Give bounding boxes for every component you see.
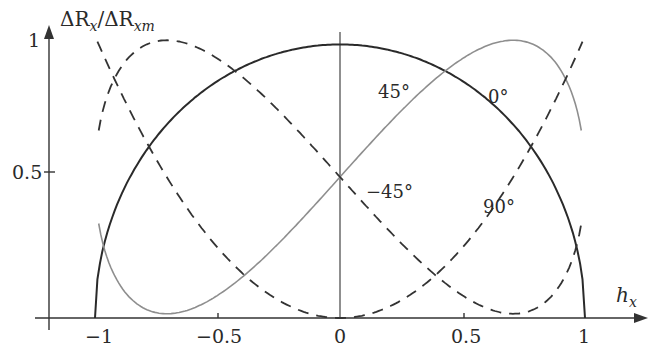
y-axis-arrow-icon [44, 25, 54, 39]
chart: ΔRx/ΔRxm hx 1 0.5 −1 −0.5 0 0.5 1 45° 0°… [0, 0, 650, 351]
y-axis-label: ΔRx/ΔRxm [60, 7, 155, 34]
xtick-minus0.5: −0.5 [196, 325, 242, 347]
xtick-0: 0 [334, 325, 346, 347]
xtick-minus1: −1 [85, 325, 113, 347]
ytick-0.5: 0.5 [12, 161, 42, 183]
annotation-0deg: 0° [488, 86, 508, 107]
xtick-0.5: 0.5 [451, 325, 481, 347]
annotation-90deg: 90° [483, 196, 515, 217]
annotation-45deg: 45° [378, 81, 410, 102]
ytick-1: 1 [28, 29, 40, 51]
annotation-minus45deg: −45° [366, 181, 413, 202]
x-axis-arrow-icon [634, 313, 648, 323]
xtick-1: 1 [578, 325, 590, 347]
x-axis-label: hx [616, 283, 637, 310]
